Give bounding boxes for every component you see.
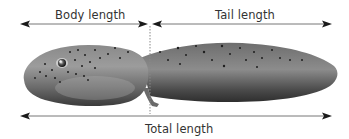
tadpole-illustration [0, 0, 349, 139]
total-length-label: Total length [145, 122, 213, 136]
tadpole-eye [56, 58, 68, 68]
tadpole-measurement-diagram: Body length Tail length Total length [0, 0, 349, 139]
tail-length-label: Tail length [215, 8, 275, 22]
body-length-label: Body length [55, 8, 125, 22]
total-length-arrow [20, 113, 332, 120]
tadpole-tail [140, 43, 337, 102]
